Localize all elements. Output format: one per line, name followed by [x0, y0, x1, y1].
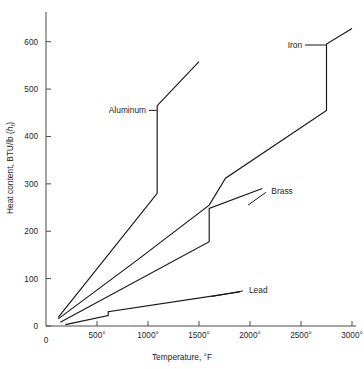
y-axis-title-prefix: Heat content, BTU/lb ( [5, 131, 15, 214]
series-label-aluminum: Aluminum [109, 105, 146, 115]
y-tick-label: 200 [24, 227, 38, 236]
y-tick-label: 400 [24, 132, 38, 141]
heat-content-chart: 0100200300400500600 500°1000°1500°2000°2… [0, 0, 364, 369]
data-series-group [58, 28, 352, 324]
y-tick-label: 600 [24, 38, 38, 47]
y-tick-label: 100 [24, 275, 38, 284]
y-tick-label: 0 [33, 322, 38, 331]
series-label-lead: Lead [249, 285, 268, 295]
x-tick-label: 500° [89, 331, 106, 340]
series-curve-aluminum [58, 62, 199, 318]
annotation-leaders [149, 45, 326, 297]
series-labels: AluminumIronBrassLead [109, 40, 303, 295]
chart-canvas: 0100200300400500600 500°1000°1500°2000°2… [0, 0, 364, 369]
svg-text:Heat content, BTU/lb (hf): Heat content, BTU/lb (hf) [5, 122, 16, 214]
y-axis-title-suffix: ) [5, 122, 15, 125]
x-tick-label: 2000° [239, 331, 261, 340]
x-axis-title: Temperature, °F [152, 352, 212, 362]
y-tick-label: 500 [24, 85, 38, 94]
x-tick-label: 2500° [290, 331, 312, 340]
series-curve-brass [60, 189, 262, 323]
series-curve-lead [65, 292, 239, 325]
x-axis-ticks: 500°1000°1500°2000°2500°3000° [89, 321, 363, 340]
y-tick-label: 300 [24, 180, 38, 189]
origin-zero-label: 0 [44, 336, 49, 345]
axes-group [46, 12, 356, 326]
x-tick-label: 1500° [188, 331, 210, 340]
leader-line-lead [211, 291, 243, 297]
series-curve-iron [58, 28, 352, 318]
y-axis-ticks: 0100200300400500600 [24, 38, 51, 331]
leader-line-brass [248, 192, 266, 205]
series-label-iron: Iron [288, 40, 303, 50]
x-tick-label: 1000° [137, 331, 159, 340]
x-tick-label: 3000° [341, 331, 363, 340]
series-label-brass: Brass [271, 186, 292, 196]
y-axis-title: Heat content, BTU/lb (hf) [5, 122, 16, 214]
